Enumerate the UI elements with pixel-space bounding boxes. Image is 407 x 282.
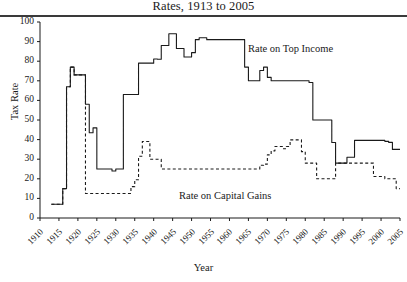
series-line-capital-gains: [51, 67, 400, 204]
plot-area: [0, 0, 407, 282]
series-line-top-income: [51, 34, 400, 205]
annotation-top-income: Rate on Top Income: [248, 43, 333, 54]
annotation-capital-gains: Rate on Capital Gains: [179, 190, 271, 201]
axis-lines: [40, 22, 400, 218]
figure-container: Rates, 1913 to 2005 Tax Rate Year 010203…: [0, 0, 407, 282]
